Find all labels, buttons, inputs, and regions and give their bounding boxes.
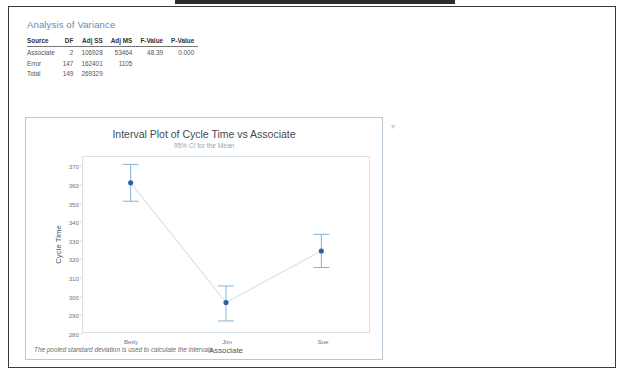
cell-p-value [167, 68, 198, 78]
mean-data-point [128, 180, 133, 185]
table-row: Associate 2 106928 53464 48.39 0.000 [27, 47, 198, 58]
cell-df: 149 [59, 68, 78, 78]
cell-adj-ms: 1105 [107, 58, 137, 68]
cell-source: Total [27, 68, 59, 78]
chevron-down-icon[interactable]: ▾ [388, 122, 397, 131]
document-frame: Analysis of Variance Source DF Adj SS Ad… [8, 6, 616, 368]
y-axis-tick-label: 290 [69, 312, 79, 319]
cell-df: 2 [59, 47, 78, 58]
column-header-source: Source [27, 36, 59, 47]
cell-adj-ss: 269329 [77, 68, 106, 78]
y-axis-tick-label: 360 [69, 181, 79, 188]
series-overlay [83, 157, 369, 332]
mean-data-point [319, 248, 324, 253]
y-axis-tick-label: 340 [69, 219, 79, 226]
y-axis-tick-mark [80, 203, 83, 204]
table-row: Total 149 269329 [27, 68, 198, 78]
y-axis-label-text: Cycle Time [54, 225, 63, 264]
y-axis-tick-mark [80, 259, 83, 260]
column-header-df: DF [59, 36, 78, 47]
table-header-row: Source DF Adj SS Adj MS F-Value P-Value [27, 36, 198, 47]
column-header-p-value: P-Value [167, 36, 198, 47]
cell-f-value: 48.39 [136, 47, 167, 58]
column-header-adj-ms: Adj MS [107, 36, 137, 47]
x-axis-tick-label: Sue [317, 338, 328, 345]
cell-p-value: 0.000 [167, 47, 198, 58]
mean-connector-line [131, 183, 322, 303]
cell-adj-ms [107, 68, 137, 78]
cell-adj-ss: 106928 [77, 47, 106, 58]
y-axis-tick-mark [80, 315, 83, 316]
x-axis-tick-label: Betty [124, 338, 138, 345]
table-row: Error 147 162401 1105 [27, 58, 198, 68]
y-axis-tick-label: 320 [69, 256, 79, 263]
y-axis-tick-mark [80, 166, 83, 167]
y-axis-tick-label: 310 [69, 275, 79, 282]
chart-title: Interval Plot of Cycle Time vs Associate [26, 128, 382, 140]
mean-data-point [223, 300, 228, 305]
y-axis-tick-mark [80, 222, 83, 223]
y-axis-tick-mark [80, 334, 83, 335]
cell-source: Error [27, 58, 59, 68]
cell-adj-ms: 53464 [107, 47, 137, 58]
window-toolbar-strip [175, 0, 455, 4]
anova-heading: Analysis of Variance [27, 19, 247, 30]
anova-table: Source DF Adj SS Adj MS F-Value P-Value … [27, 36, 198, 78]
chart-footnote: The pooled standard deviation is used to… [34, 346, 214, 353]
cell-f-value [136, 68, 167, 78]
x-axis-tick-label: Jim [222, 338, 232, 345]
chart-subtitle: 95% CI for the Mean [26, 142, 382, 149]
y-axis-tick-label: 370 [69, 163, 79, 170]
y-axis-tick-label: 330 [69, 237, 79, 244]
plot-area: 280290300310320330340350360370BettyJimSu… [82, 156, 370, 333]
y-axis-tick-label: 350 [69, 200, 79, 207]
column-header-adj-ss: Adj SS [77, 36, 106, 47]
cell-f-value [136, 58, 167, 68]
y-axis-tick-mark [80, 278, 83, 279]
column-header-f-value: F-Value [136, 36, 167, 47]
cell-p-value [167, 58, 198, 68]
y-axis-tick-mark [80, 184, 83, 185]
y-axis-tick-label: 280 [69, 331, 79, 338]
y-axis-tick-mark [80, 240, 83, 241]
interval-plot-card: Interval Plot of Cycle Time vs Associate… [25, 117, 383, 360]
cell-df: 147 [59, 58, 78, 68]
cell-source: Associate [27, 47, 59, 58]
y-axis-label: Cycle Time [52, 156, 64, 333]
y-axis-tick-label: 300 [69, 293, 79, 300]
analysis-of-variance-section: Analysis of Variance Source DF Adj SS Ad… [27, 19, 247, 78]
cell-adj-ss: 162401 [77, 58, 106, 68]
y-axis-tick-mark [80, 296, 83, 297]
